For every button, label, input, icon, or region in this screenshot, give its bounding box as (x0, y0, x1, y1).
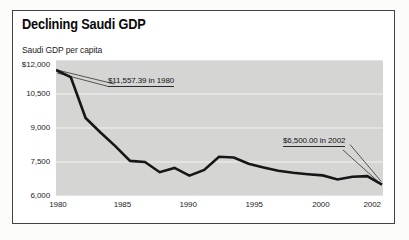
annotation-1980-text: $11,557.39 in 1980 (108, 76, 174, 87)
plot-area: $11,557.39 in 1980 $6,500.00 in 2002 (56, 60, 383, 196)
y-tick-label: 7,500 (0, 157, 50, 166)
annotation-2002-text: $6,500.00 in 2002 (283, 136, 345, 147)
y-tick-label: 10,500 (0, 89, 50, 98)
leader-line (57, 70, 114, 84)
chart-title: Declining Saudi GDP (22, 16, 146, 32)
chart-canvas (56, 60, 383, 196)
chart-panel: Declining Saudi GDP Saudi GDP per capita… (12, 10, 395, 224)
page: Declining Saudi GDP Saudi GDP per capita… (0, 0, 409, 240)
y-tick-label: $12,000 (0, 60, 50, 69)
annotation-1980: $11,557.39 in 1980 (108, 76, 174, 87)
y-axis-caption: Saudi GDP per capita (22, 45, 102, 55)
y-tick-label: 9,000 (0, 123, 50, 132)
x-tick-label: 1980 (36, 200, 80, 209)
x-tick-label: 2000 (299, 200, 343, 209)
x-tick-label: 1990 (166, 200, 210, 209)
gdp-line (56, 70, 382, 185)
x-tick-label: 2002 (350, 200, 394, 209)
x-tick-label: 1995 (232, 200, 276, 209)
x-tick-label: 1985 (100, 200, 144, 209)
annotation-2002: $6,500.00 in 2002 (283, 136, 345, 147)
y-tick-label: 6,000 (0, 191, 50, 200)
